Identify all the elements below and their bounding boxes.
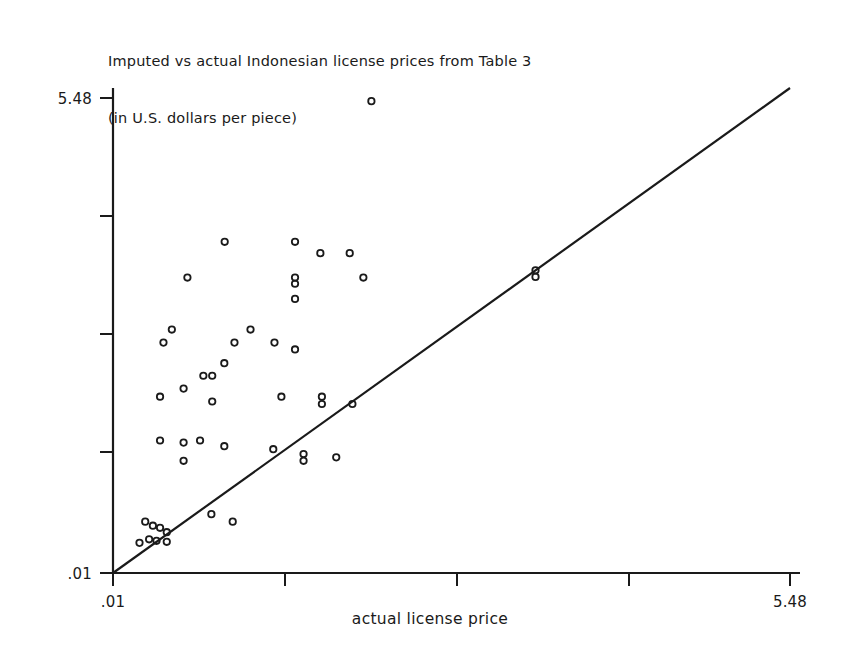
data-point	[278, 393, 284, 399]
data-point	[160, 339, 166, 345]
data-point	[184, 274, 190, 280]
data-point	[319, 401, 325, 407]
scatter-plot: 5.48 .01 .01 5.48 actual license price	[0, 0, 854, 646]
data-point	[221, 239, 227, 245]
data-point	[209, 373, 215, 379]
data-point	[157, 437, 163, 443]
data-point	[319, 393, 325, 399]
data-point	[180, 458, 186, 464]
data-point	[180, 385, 186, 391]
data-point	[317, 250, 323, 256]
data-point	[292, 346, 298, 352]
data-point	[164, 539, 170, 545]
data-point	[292, 239, 298, 245]
data-points-group	[136, 98, 538, 546]
y-axis-max-label: 5.48	[58, 90, 92, 108]
data-point	[200, 373, 206, 379]
data-point	[146, 536, 152, 542]
x-axis-ticks	[113, 573, 790, 586]
data-point	[157, 393, 163, 399]
x-axis-title: actual license price	[352, 610, 508, 628]
data-point	[150, 522, 156, 528]
data-point	[208, 511, 214, 517]
data-point	[197, 437, 203, 443]
data-point	[157, 525, 163, 531]
y-axis-ticks	[100, 98, 113, 573]
data-point	[221, 360, 227, 366]
data-point	[209, 398, 215, 404]
data-point	[270, 446, 276, 452]
data-point	[347, 250, 353, 256]
data-point	[231, 339, 237, 345]
x-axis-max-label: 5.48	[773, 593, 807, 611]
data-point	[333, 454, 339, 460]
data-point	[532, 274, 538, 280]
data-point	[300, 458, 306, 464]
data-point	[271, 339, 277, 345]
y-axis-min-label: .01	[68, 565, 92, 583]
data-point	[368, 98, 374, 104]
data-point	[300, 451, 306, 457]
data-point	[230, 518, 236, 524]
data-point	[136, 540, 142, 546]
data-point	[292, 296, 298, 302]
data-point	[221, 443, 227, 449]
data-point	[360, 274, 366, 280]
data-point	[142, 518, 148, 524]
data-point	[169, 326, 175, 332]
chart-page: Imputed vs actual Indonesian license pri…	[0, 0, 854, 646]
identity-reference-line	[113, 88, 790, 573]
data-point	[180, 439, 186, 445]
data-point	[247, 326, 253, 332]
x-axis-min-label: .01	[101, 593, 125, 611]
